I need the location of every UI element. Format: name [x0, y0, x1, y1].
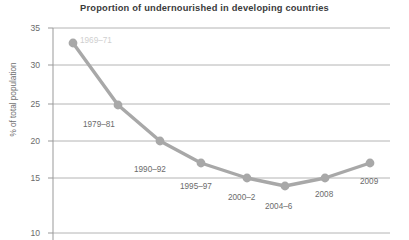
data-point-1969-71[interactable]: [69, 39, 78, 48]
data-label-2009: 2009: [360, 177, 378, 186]
chart-figure: Proportion of undernourished in developi…: [0, 0, 409, 240]
data-point-2009[interactable]: [366, 159, 375, 168]
data-label-1995-97: 1995–97: [180, 182, 212, 191]
data-label-2008: 2008: [315, 190, 333, 199]
data-label-1990-92: 1990–92: [134, 165, 166, 174]
series-line-undernourished: [73, 43, 370, 186]
data-label-1969-71: 1969–71: [80, 36, 112, 45]
data-label-1979-81: 1979–81: [83, 120, 115, 129]
plot-area: [0, 0, 409, 240]
data-point-2004-6[interactable]: [281, 182, 290, 191]
y-axis-line: [48, 28, 53, 240]
data-point-2000-2[interactable]: [243, 174, 252, 183]
data-point-2008[interactable]: [321, 174, 330, 183]
data-point-1979-81[interactable]: [114, 101, 123, 110]
series-markers: [69, 39, 375, 191]
data-point-1990-92[interactable]: [156, 137, 165, 146]
data-label-2000-2: 2000–2: [228, 193, 255, 202]
gridlines: [53, 28, 390, 233]
data-label-2004-6: 2004–6: [265, 202, 292, 211]
data-point-1995-97[interactable]: [197, 159, 206, 168]
